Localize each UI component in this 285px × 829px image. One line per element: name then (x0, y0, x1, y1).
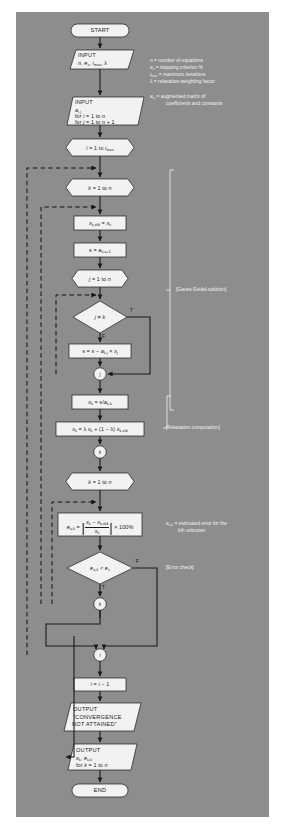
conn-k2-to-i (46, 610, 100, 649)
err-false-branch (104, 568, 157, 649)
error-formula-label: ea,k = |xk − xk,oldxk| × 100% (58, 519, 142, 536)
branch-label-jk-true: T (130, 308, 133, 313)
output-fail-line2: “CONVERGENCE (73, 714, 122, 721)
input-matrix-label: INPUT (75, 99, 93, 106)
start-label: START (71, 27, 129, 34)
output-fail-line3: NOT ATTAINED” (72, 721, 117, 728)
conn-k1-label: k (94, 449, 106, 455)
assign-old-label: xk,old = xk (74, 220, 126, 228)
loop-return-paths (27, 168, 96, 655)
branch-label-err-true: T (102, 585, 105, 590)
input-params-label: INPUT (78, 52, 96, 59)
bracket-gauss-seidel (170, 170, 174, 410)
loop-k-label: k = 1 to n (66, 185, 134, 192)
output-fail-label: OUTPUT (73, 706, 98, 713)
branch-label-jk-false: F (102, 334, 105, 339)
flowchart-graphics (0, 0, 285, 829)
annotation-relaxation: [Relaxation computation] (166, 425, 220, 431)
input-params-vars: n, es, imax, λ (78, 60, 107, 68)
flowchart-page: START INPUT n, es, imax, λ INPUT ai,j fo… (0, 0, 285, 829)
annotation-error-def-cont: kth unknown (178, 528, 205, 534)
output-ok-label: OUTPUT (76, 747, 101, 754)
loop-k2-label: k = 1 to n (66, 479, 134, 486)
loop-i-return (27, 168, 96, 655)
decision-jk-label: j ≠ k (84, 314, 116, 321)
assign-relax-label: xk = λ xk + (1 − λ) xk,old (56, 426, 144, 434)
loop-i-label: i = 1 to imax (66, 145, 134, 153)
legend-item-lambda: λ = relaxation weighting factor (150, 78, 215, 85)
input-matrix-line3: for j = 1 to n + 1 (75, 119, 115, 126)
decision-error-label: ea,k < es (82, 565, 118, 573)
assign-i-label: i = i − 1 (74, 681, 126, 688)
assign-s-label: s = ak,n+1 (74, 247, 126, 255)
annotation-error-check: [Error check] (166, 565, 194, 571)
branch-label-err-false: F (136, 559, 139, 564)
end-label: END (72, 787, 128, 794)
err-true-to-output (66, 636, 74, 757)
output-ok-line2: for k = 1 to n (76, 762, 108, 769)
annotation-brackets (163, 170, 174, 428)
annotation-gauss-seidel: [Gauss-Seidel solution] (176, 287, 226, 293)
conn-j-label: j (94, 371, 106, 377)
legend-item-aij-cont: coefficients and constants (166, 100, 222, 107)
conn-i-label: i (94, 652, 106, 658)
assign-s2-label: s = s − ak,j × xj (69, 348, 131, 356)
loop-j-label: j = 1 to n (72, 276, 128, 283)
conn-k2-label: k (94, 601, 106, 607)
assign-xk-label: xk = s/ak,k (72, 399, 128, 407)
